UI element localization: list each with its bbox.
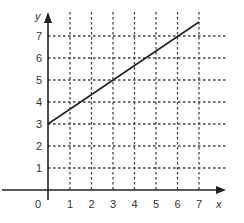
y-tick: 6 — [36, 52, 42, 64]
y-tick: 1 — [36, 162, 42, 174]
y-tick: 4 — [36, 96, 42, 108]
y-tick: 5 — [36, 74, 42, 86]
x-tick: 5 — [153, 198, 159, 210]
y-axis-label: y — [34, 10, 42, 22]
grid — [48, 12, 226, 190]
x-tick: 1 — [67, 198, 73, 210]
x-tick: 7 — [196, 198, 202, 210]
x-axis-arrow-icon — [216, 186, 226, 194]
y-tick: 3 — [36, 118, 42, 130]
x-tick: 2 — [88, 198, 94, 210]
x-tick: 3 — [110, 198, 116, 210]
x-axis-label: x — [215, 198, 222, 210]
y-tick: 2 — [36, 140, 42, 152]
line-chart: 0 1 2 3 4 5 6 7 1 2 3 4 5 6 7 x y — [0, 0, 244, 223]
x-tick: 0 — [35, 198, 41, 210]
y-tick-labels: 1 2 3 4 5 6 7 — [36, 30, 42, 174]
x-tick: 4 — [131, 198, 137, 210]
x-tick-labels: 0 1 2 3 4 5 6 7 — [35, 198, 202, 210]
x-tick: 6 — [174, 198, 180, 210]
y-axis-arrow-icon — [44, 12, 52, 23]
y-tick: 7 — [36, 30, 42, 42]
